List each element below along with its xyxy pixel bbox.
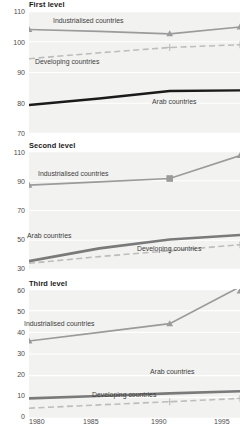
series-line-developing-countries bbox=[29, 45, 240, 59]
series-label-developing-countries: Developing countries bbox=[137, 245, 201, 253]
series-line-developing-countries bbox=[29, 245, 240, 264]
y-tick-label: 110 bbox=[0, 8, 25, 15]
chart-title-third-level: Third level bbox=[29, 280, 67, 288]
y-tick-label: 50 bbox=[0, 236, 25, 243]
y-tick-label: 100 bbox=[0, 39, 25, 46]
series-label-developing-countries: Developing countries bbox=[35, 58, 99, 66]
y-tick-label: 110 bbox=[0, 149, 25, 156]
y-tick-label: 10 bbox=[0, 392, 25, 399]
series-line-developing-countries bbox=[29, 398, 240, 408]
series-label-industrialised-countries: Industrialised countries bbox=[24, 320, 94, 328]
series-line-industrialised-countries bbox=[29, 289, 240, 341]
x-tick-label: 1995 bbox=[214, 418, 230, 425]
y-tick-label: 80 bbox=[0, 100, 25, 107]
series-label-industrialised-countries: Industrialised countries bbox=[38, 170, 108, 178]
plot-svg-second-level bbox=[29, 151, 240, 270]
chart-title-second-level: Second level bbox=[29, 142, 75, 150]
y-tick-label: 30 bbox=[0, 350, 25, 357]
y-tick-label: 90 bbox=[0, 69, 25, 76]
y-tick-label: 50 bbox=[0, 308, 25, 315]
y-tick-label: 60 bbox=[0, 287, 25, 294]
series-markers-industrialised-countries bbox=[29, 289, 240, 344]
chart-first-level: First level 110 100 90 80 70 bbox=[0, 0, 240, 140]
chart-title-first-level: First level bbox=[29, 1, 65, 9]
plot-svg-first-level bbox=[29, 11, 240, 134]
y-tick-label: 40 bbox=[0, 329, 25, 336]
series-label-arab-countries: Arab countries bbox=[152, 98, 196, 106]
y-tick-label: 30 bbox=[0, 265, 25, 272]
chart-second-level: Second level 110 90 70 50 30 bbox=[0, 140, 240, 278]
y-tick-label: 70 bbox=[0, 207, 25, 214]
series-label-arab-countries: Arab countries bbox=[27, 232, 71, 240]
y-tick-label: 20 bbox=[0, 371, 25, 378]
plot-svg-third-level bbox=[29, 289, 240, 419]
plot-area-third-level bbox=[29, 289, 240, 419]
gridlines bbox=[29, 290, 240, 419]
y-tick-label: 70 bbox=[0, 130, 25, 137]
x-tick-label: 1985 bbox=[83, 418, 99, 425]
chart-third-level: Third level 60 50 40 30 20 10 0 bbox=[0, 278, 240, 432]
x-tick-label: 1980 bbox=[29, 418, 45, 425]
series-line-industrialised-countries bbox=[29, 27, 240, 34]
series-label-developing-countries: Developing countries bbox=[92, 391, 156, 399]
plot-area-first-level bbox=[29, 11, 240, 134]
series-label-industrialised-countries: Industrialised countries bbox=[53, 17, 123, 25]
x-axis: 1980 1985 1990 1995 bbox=[0, 418, 240, 430]
y-tick-label: 90 bbox=[0, 178, 25, 185]
plot-area-second-level bbox=[29, 151, 240, 270]
series-label-arab-countries: Arab countries bbox=[150, 368, 194, 376]
x-tick-label: 1990 bbox=[151, 418, 167, 425]
